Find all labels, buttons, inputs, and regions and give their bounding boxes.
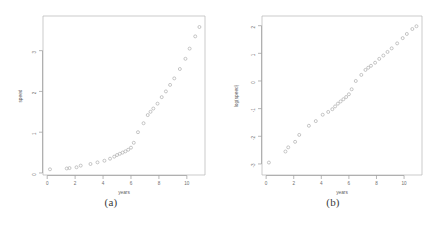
panel-b: -3-2-1012 0246810 years log(speed) (b) — [222, 0, 444, 229]
svg-text:0: 0 — [252, 81, 257, 84]
data-points-b — [267, 25, 418, 164]
y-axis-title-a: speed — [18, 89, 23, 102]
x-axis-title-b: years — [336, 190, 348, 195]
plot-frame-b — [262, 16, 422, 175]
svg-text:0: 0 — [33, 173, 38, 176]
scatter-plot-a: 0123 0246810 years speed — [0, 0, 222, 200]
y-axis-title-b: log(speed) — [234, 84, 239, 107]
svg-text:2: 2 — [74, 181, 77, 186]
svg-text:6: 6 — [130, 181, 133, 186]
svg-text:4: 4 — [102, 181, 105, 186]
svg-text:10: 10 — [402, 181, 408, 186]
svg-text:8: 8 — [375, 181, 378, 186]
svg-text:-3: -3 — [252, 163, 257, 168]
plot-area-a: 0123 0246810 years speed — [0, 0, 222, 200]
y-axis-b: -3-2-1012 — [252, 26, 262, 168]
data-points-a — [48, 26, 200, 171]
svg-text:8: 8 — [158, 181, 161, 186]
svg-text:1: 1 — [33, 132, 38, 135]
panel-caption-b: (b) — [222, 196, 444, 208]
x-axis-b: 0246810 — [265, 176, 407, 187]
svg-text:1: 1 — [252, 53, 257, 56]
svg-text:4: 4 — [320, 181, 323, 186]
plot-box-b — [262, 16, 422, 175]
svg-text:0: 0 — [265, 181, 268, 186]
svg-text:6: 6 — [348, 181, 351, 186]
scatter-plot-b: -3-2-1012 0246810 years log(speed) — [222, 0, 444, 200]
svg-text:2: 2 — [252, 26, 257, 29]
plot-area-b: -3-2-1012 0246810 years log(speed) — [222, 0, 444, 200]
panel-a: 0123 0246810 years speed (a) — [0, 0, 222, 229]
y-axis-a: 0123 — [33, 51, 43, 176]
svg-text:3: 3 — [33, 51, 38, 54]
svg-text:10: 10 — [184, 181, 190, 186]
svg-text:-2: -2 — [252, 135, 257, 140]
x-axis-a: 0246810 — [46, 176, 190, 187]
svg-text:0: 0 — [46, 181, 49, 186]
panel-caption-a: (a) — [0, 196, 222, 208]
svg-text:2: 2 — [292, 181, 295, 186]
two-panel-scatter-figure: 0123 0246810 years speed (a) -3-2-1012 0… — [0, 0, 444, 229]
x-axis-title-a: years — [118, 190, 130, 195]
svg-text:2: 2 — [33, 91, 38, 94]
svg-text:-1: -1 — [252, 108, 257, 113]
